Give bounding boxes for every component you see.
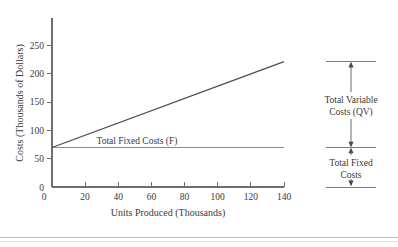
x-tick-label-60: 60 <box>147 192 157 202</box>
annotation-total-fixed-costs-line1: Total Fixed <box>329 158 373 168</box>
x-tick-label-40: 40 <box>114 192 124 202</box>
footer-divider-primary <box>0 237 398 238</box>
arrow-head-up-fixed <box>348 148 353 154</box>
annotation-total-fixed-costs-line2: Costs <box>340 170 361 180</box>
y-axis-ticks <box>47 46 52 159</box>
inline-label-total-fixed-costs: Total Fixed Costs (F) <box>97 136 178 147</box>
x-tick-label-20: 20 <box>80 192 90 202</box>
x-axis-title: Units Produced (Thousands) <box>111 207 225 219</box>
x-tick-label-140: 140 <box>277 192 292 202</box>
arrow-head-down-variable <box>348 142 353 148</box>
footer-divider-secondary <box>0 241 398 242</box>
x-axis-ticks <box>85 182 284 187</box>
cost-volume-chart-figure: 250 200 150 100 50 0 Costs (Thousands of… <box>0 0 398 247</box>
y-axis-title: Costs (Thousands of Dollars) <box>14 44 26 162</box>
y-tick-label-100: 100 <box>30 126 45 136</box>
series-line-total-costs <box>52 62 284 148</box>
x-tick-label-100: 100 <box>211 192 226 202</box>
annotation-total-variable-costs-line1: Total Variable <box>324 95 377 105</box>
y-tick-label-250: 250 <box>30 41 45 51</box>
x-tick-label-0: 0 <box>42 192 47 202</box>
x-tick-label-80: 80 <box>180 192 190 202</box>
annotation-total-variable-costs-line2: Costs (QV) <box>329 107 373 118</box>
y-tick-label-150: 150 <box>30 97 45 107</box>
x-tick-label-120: 120 <box>244 192 259 202</box>
arrow-head-up-variable <box>348 62 353 68</box>
y-tick-label-50: 50 <box>35 154 45 164</box>
arrow-head-down-fixed <box>348 181 353 187</box>
chart-canvas: 250 200 150 100 50 0 Costs (Thousands of… <box>0 0 398 247</box>
y-tick-label-200: 200 <box>30 69 45 79</box>
